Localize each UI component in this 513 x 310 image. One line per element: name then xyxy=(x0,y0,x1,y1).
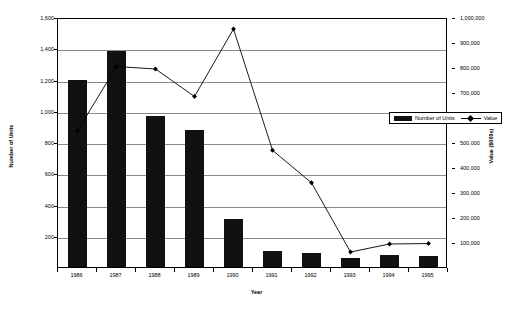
x-axis-tickmark xyxy=(408,268,409,272)
y-axis-right-tickmark xyxy=(452,68,455,69)
y-axis-right-tick-label: 500,000 xyxy=(460,140,480,146)
y-axis-right-tick-label: 1,000,000 xyxy=(460,15,484,21)
y-axis-right-tickmark xyxy=(452,143,455,144)
x-axis-tickmark xyxy=(57,268,58,272)
y-axis-left-title: Number of Units xyxy=(8,111,14,181)
y-axis-right-tickmark xyxy=(452,218,455,219)
y-axis-right-tickmark xyxy=(452,18,455,19)
x-axis-title: Year xyxy=(0,289,513,295)
x-axis-tick-label-1987: 1987 xyxy=(96,272,136,278)
plot-area: Number of Units Value xyxy=(57,18,447,268)
y-axis-right-tickmark xyxy=(452,168,455,169)
y-axis-left-tick-label: 800 xyxy=(45,140,54,146)
line-marker-swatch-icon xyxy=(461,116,481,121)
x-axis-tickmark xyxy=(369,268,370,272)
legend-entry-units: Number of Units xyxy=(394,115,455,121)
x-axis-tick-label-1989: 1989 xyxy=(174,272,214,278)
x-axis-tickmark xyxy=(330,268,331,272)
value-marker-1995 xyxy=(426,241,431,246)
value-marker-1987 xyxy=(114,64,119,69)
x-axis-tickmark xyxy=(447,268,448,272)
legend-label-value: Value xyxy=(484,115,498,121)
chart-container: 2004006008001,0001,2001,4001,600 100,000… xyxy=(0,0,513,310)
y-axis-left-tick-label: 1,200 xyxy=(40,78,54,84)
y-axis-right-ticks: 100,000200,000300,000400,000500,000600,0… xyxy=(452,0,504,310)
y-axis-right-tick-label: 900,000 xyxy=(460,40,480,46)
x-axis-tick-label-1995: 1995 xyxy=(408,272,448,278)
y-axis-right-tickmark xyxy=(452,43,455,44)
value-line-path xyxy=(78,29,429,252)
x-axis-tick-label-1990: 1990 xyxy=(213,272,253,278)
x-axis-tick-label-1992: 1992 xyxy=(291,272,331,278)
x-axis-tickmark xyxy=(213,268,214,272)
bar-swatch-icon xyxy=(394,116,412,121)
chart-legend: Number of Units Value xyxy=(389,112,502,124)
y-axis-right-tick-label: 400,000 xyxy=(460,165,480,171)
x-axis-tick-label-1991: 1991 xyxy=(252,272,292,278)
x-axis-ticks: 1986198719881989199019911992199319941995 xyxy=(57,272,447,284)
x-axis-tick-label-1993: 1993 xyxy=(330,272,370,278)
x-axis-tickmark xyxy=(252,268,253,272)
legend-entry-value: Value xyxy=(461,115,498,121)
y-axis-left-tick-label: 600 xyxy=(45,171,54,177)
x-axis-tickmark xyxy=(96,268,97,272)
y-axis-right-tick-label: 200,000 xyxy=(460,215,480,221)
y-axis-right-tick-label: 300,000 xyxy=(460,190,480,196)
x-axis-tick-label-1986: 1986 xyxy=(57,272,97,278)
value-marker-1993 xyxy=(348,250,353,255)
line-series xyxy=(58,19,448,269)
y-axis-left-tick-label: 1,000 xyxy=(40,109,54,115)
value-marker-1994 xyxy=(387,242,392,247)
x-axis-tickmark xyxy=(291,268,292,272)
y-axis-right-tick-label: 700,000 xyxy=(460,90,480,96)
y-axis-left-tick-label: 1,600 xyxy=(40,15,54,21)
y-axis-left-ticks: 2004006008001,0001,2001,4001,600 xyxy=(8,0,54,310)
y-axis-right-tickmark xyxy=(452,93,455,94)
x-axis-tickmark xyxy=(135,268,136,272)
value-marker-1990 xyxy=(231,27,236,32)
x-axis-tick-label-1994: 1994 xyxy=(369,272,409,278)
value-marker-1986 xyxy=(75,128,80,133)
y-axis-left-tick-label: 200 xyxy=(45,234,54,240)
y-axis-right-tick-label: 800,000 xyxy=(460,65,480,71)
y-axis-right-tickmark xyxy=(452,243,455,244)
x-axis-tick-label-1988: 1988 xyxy=(135,272,175,278)
value-markers xyxy=(75,27,431,255)
y-axis-left-tick-label: 400 xyxy=(45,203,54,209)
legend-label-units: Number of Units xyxy=(415,115,455,121)
y-axis-left-tick-label: 1,400 xyxy=(40,46,54,52)
x-axis-tickmark xyxy=(174,268,175,272)
y-axis-right-tick-label: 100,000 xyxy=(460,240,480,246)
y-axis-right-tickmark xyxy=(452,193,455,194)
